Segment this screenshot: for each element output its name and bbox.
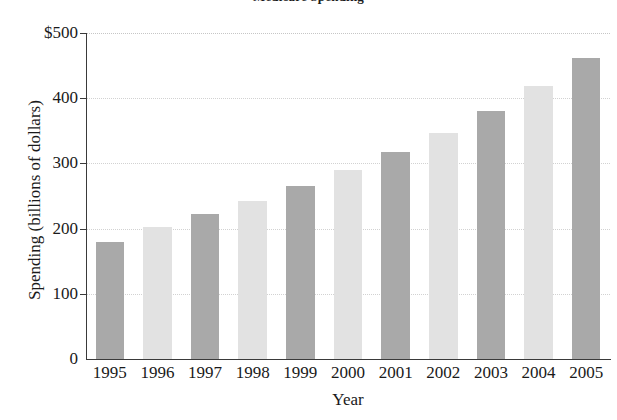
x-axis-tick-label: 2004 [515,363,563,383]
y-axis-tick-label: 200 [8,219,78,239]
chart-title: Medicare Spending [0,0,617,5]
x-axis-tick-label: 2005 [562,363,610,383]
x-axis-tick-label: 1998 [229,363,277,383]
x-axis-title: Year [86,390,610,410]
bar [524,86,553,359]
y-axis-tick-label: $500 [8,23,78,43]
x-axis-line [86,359,611,360]
x-axis-tick-label: 2000 [324,363,372,383]
y-axis-tick-labels: 0100200300400$500 [0,0,78,420]
x-axis-tick-label: 2002 [419,363,467,383]
x-axis-tick-label: 2003 [467,363,515,383]
bar [477,111,506,359]
bar [286,186,315,359]
bar-series [86,33,610,359]
y-axis-tick [80,98,87,99]
x-axis-tick-label: 2001 [372,363,420,383]
bar [381,152,410,359]
y-axis-tick-label: 400 [8,88,78,108]
bar [96,242,125,359]
y-axis-tick [80,163,87,164]
y-axis-tick [80,33,87,34]
y-axis-tick-label: 100 [8,284,78,304]
x-axis-tick-label: 1997 [181,363,229,383]
x-axis-tick-labels: 1995199619971998199920002001200220032004… [86,363,610,389]
y-axis-tick-label: 300 [8,153,78,173]
x-axis-tick-label: 1996 [134,363,182,383]
chart-page: Medicare Spending Spending (billions of … [0,0,617,420]
bar [191,214,220,359]
y-axis-tick [80,229,87,230]
plot-area [86,33,610,359]
bar [429,133,458,359]
x-axis-tick-label: 1995 [86,363,134,383]
x-axis-tick-label: 1999 [277,363,325,383]
bar [143,227,172,359]
bar [572,58,601,359]
bar [238,201,267,359]
y-axis-tick [80,294,87,295]
y-axis-tick-label: 0 [8,349,78,369]
bar [334,170,363,359]
